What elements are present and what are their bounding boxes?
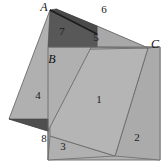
region-label-3: 3: [60, 140, 66, 152]
region-label-8: 8: [41, 132, 47, 144]
vertex-label-c: C: [151, 37, 160, 51]
geometric-figure-container: A B C 1 2 3 4 5 6 7 8: [0, 0, 167, 164]
vertex-label-a: A: [39, 0, 48, 14]
region-label-5: 5: [93, 31, 99, 43]
region-label-2: 2: [134, 131, 140, 143]
region-label-6: 6: [101, 3, 107, 15]
region-label-1: 1: [96, 93, 102, 105]
region-label-4: 4: [35, 89, 41, 101]
dissection-diagram: A B C 1 2 3 4 5 6 7 8: [0, 0, 167, 164]
vertex-label-b: B: [48, 52, 56, 66]
region-label-7: 7: [59, 25, 65, 37]
